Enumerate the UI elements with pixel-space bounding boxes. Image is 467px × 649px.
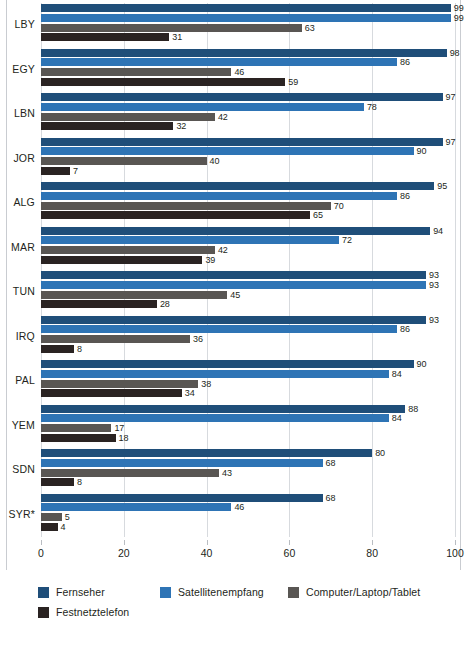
xtick-mark-100	[455, 540, 456, 545]
bar-IRQ-3	[41, 345, 74, 353]
legend-item[interactable]: Festnetztelefon	[38, 606, 129, 618]
bar-row: 59	[41, 78, 455, 86]
bar-LBY-1	[41, 14, 451, 22]
xtick-label-100: 100	[446, 548, 464, 559]
bar-YEM-0	[41, 405, 405, 413]
bar-value-label: 59	[288, 77, 298, 86]
bar-SDN-3	[41, 478, 74, 486]
bar-value-label: 46	[234, 503, 244, 512]
bar-EGY-3	[41, 78, 285, 86]
xtick-label-0: 0	[38, 548, 44, 559]
bar-row: 43	[41, 469, 455, 477]
bar-IRQ-0	[41, 316, 426, 324]
category-label-YEM: YEM	[12, 420, 35, 431]
bar-row: 86	[41, 325, 455, 333]
bar-row: 99	[41, 4, 455, 12]
legend-item[interactable]: Satellitenempfang	[160, 586, 264, 598]
bar-value-label: 86	[400, 191, 410, 200]
chart-legend: FernseherSatellitenempfangComputer/Lapto…	[38, 586, 458, 634]
bar-ALG-0	[41, 182, 434, 190]
bar-LBN-2	[41, 113, 215, 121]
bar-TUN-2	[41, 291, 227, 299]
bar-MAR-1	[41, 236, 339, 244]
bar-value-label: 84	[392, 414, 402, 423]
bar-SDN-0	[41, 449, 372, 457]
bar-row: 45	[41, 291, 455, 299]
bar-TUN-1	[41, 281, 426, 289]
bar-MAR-2	[41, 246, 215, 254]
bar-row: 28	[41, 300, 455, 308]
bar-row: 68	[41, 459, 455, 467]
bar-MAR-3	[41, 256, 202, 264]
bar-value-label: 34	[185, 389, 195, 398]
x-axis: 020406080100	[41, 540, 455, 564]
bar-row: 4	[41, 523, 455, 531]
bar-SYR-0	[41, 494, 323, 502]
xtick-mark-60	[289, 540, 290, 545]
category-label-MAR: MAR	[11, 242, 35, 253]
bar-value-label: 98	[450, 48, 460, 57]
bar-group: 95867065	[41, 181, 455, 226]
bar-LBN-0	[41, 93, 443, 101]
bar-EGY-0	[41, 49, 447, 57]
legend-item[interactable]: Fernseher	[38, 586, 105, 598]
bar-value-label: 40	[210, 157, 220, 166]
category-label-IRQ: IRQ	[16, 331, 35, 342]
bar-row: 5	[41, 513, 455, 521]
bar-row: 95	[41, 182, 455, 190]
legend-label: Fernseher	[56, 586, 105, 598]
plot-area: 9999633198864659977842329790407958670659…	[41, 3, 455, 537]
bar-SYR-1	[41, 503, 231, 511]
bar-JOR-1	[41, 147, 414, 155]
bar-row: 42	[41, 246, 455, 254]
bar-row: 36	[41, 335, 455, 343]
bar-row: 86	[41, 192, 455, 200]
bar-value-label: 90	[417, 147, 427, 156]
bar-SDN-1	[41, 459, 323, 467]
bar-row: 84	[41, 370, 455, 378]
bar-group: 8068438	[41, 448, 455, 493]
bar-value-label: 94	[433, 226, 443, 235]
bar-LBY-0	[41, 4, 451, 12]
xtick-label-60: 60	[284, 548, 296, 559]
bar-row: 88	[41, 405, 455, 413]
bar-value-label: 28	[160, 300, 170, 309]
bar-row: 32	[41, 122, 455, 130]
legend-swatch-icon	[288, 587, 299, 598]
xtick-mark-0	[41, 540, 42, 545]
bar-row: 90	[41, 360, 455, 368]
bar-SDN-2	[41, 469, 219, 477]
bar-PAL-2	[41, 380, 198, 388]
bar-row: 46	[41, 503, 455, 511]
bar-LBY-2	[41, 24, 302, 32]
bar-row: 34	[41, 389, 455, 397]
bar-row: 70	[41, 202, 455, 210]
bar-JOR-2	[41, 157, 207, 165]
bar-row: 18	[41, 434, 455, 442]
bar-row: 8	[41, 478, 455, 486]
bar-EGY-2	[41, 68, 231, 76]
bar-value-label: 36	[193, 335, 203, 344]
category-label-TUN: TUN	[13, 286, 35, 297]
bar-YEM-3	[41, 434, 116, 442]
bar-LBN-1	[41, 103, 364, 111]
bar-value-label: 86	[400, 58, 410, 67]
bar-MAR-0	[41, 227, 430, 235]
bar-PAL-0	[41, 360, 414, 368]
bar-group: 99996331	[41, 3, 455, 48]
xtick-mark-80	[372, 540, 373, 545]
bar-value-label: 4	[61, 522, 66, 531]
bar-row: 7	[41, 167, 455, 175]
bar-row: 80	[41, 449, 455, 457]
bar-value-label: 18	[119, 433, 129, 442]
bar-ALG-1	[41, 192, 397, 200]
bar-value-label: 8	[77, 344, 82, 353]
category-label-SYR: SYR*	[9, 509, 35, 520]
category-label-EGY: EGY	[12, 64, 35, 75]
bar-group: 93934528	[41, 270, 455, 315]
legend-item[interactable]: Computer/Laptop/Tablet	[288, 586, 420, 598]
bar-value-label: 93	[429, 280, 439, 289]
bar-row: 84	[41, 414, 455, 422]
bar-value-label: 42	[218, 246, 228, 255]
category-label-ALG: ALG	[13, 197, 35, 208]
